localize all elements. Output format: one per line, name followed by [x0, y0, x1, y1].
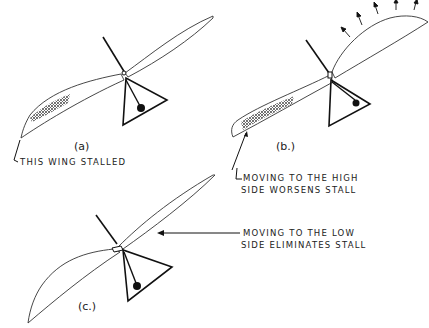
caption-a: (a) [74, 140, 89, 153]
pointer-b [232, 133, 246, 170]
right-wing [118, 175, 215, 249]
annotation-b-line2: SIDE WORSENS STALL [241, 185, 357, 195]
annotation-c-line1: MOVING TO THE LOW [243, 228, 355, 238]
caption-c: (c.) [78, 300, 96, 313]
panel-a: (a) THIS WING STALLED [14, 16, 213, 167]
control-bar-triangle [123, 78, 167, 125]
right-wing [125, 16, 213, 77]
pilot-icon [137, 104, 145, 112]
hang-glider-stall-diagram: (a) THIS WING STALLED (b.) MOVING TO THE… [0, 0, 429, 328]
pilot-icon [353, 100, 360, 107]
panel-b: (b.) MOVING TO THE HIGH SIDE WORSENS STA… [232, 0, 428, 195]
annotation-c-line2: SIDE ELIMINATES STALL [241, 240, 367, 250]
right-wing [332, 16, 428, 78]
annotation-a: THIS WING STALLED [19, 157, 126, 167]
pilot-line [332, 82, 355, 100]
control-bar-triangle [123, 250, 172, 301]
kingpost [103, 37, 125, 73]
caption-b: (b.) [276, 140, 295, 153]
pilot-icon [133, 282, 141, 290]
kingpost [96, 215, 117, 244]
control-bar-triangle [329, 80, 370, 126]
left-wing-stalled [21, 74, 124, 138]
left-wing [28, 249, 120, 323]
panel-c: (c.) MOVING TO THE LOW SIDE ELIMINATES S… [28, 175, 367, 323]
annotation-b-line1: MOVING TO THE HIGH [243, 173, 359, 183]
kingpost [306, 40, 329, 73]
